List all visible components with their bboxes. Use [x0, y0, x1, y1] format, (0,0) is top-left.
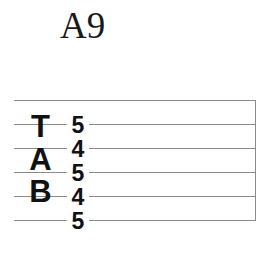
staff-line-6 — [14, 220, 256, 221]
staff-end-barline — [255, 100, 256, 221]
tab-clef-letter-b: B — [29, 176, 50, 207]
tab-clef: T A B — [27, 111, 53, 207]
tab-diagram-root: A9 T A B 5 4 5 4 5 — [0, 0, 269, 259]
tab-clef-letter-a: A — [29, 144, 50, 175]
fret-number-string-1: 5 — [67, 113, 89, 138]
chord-name-label: A9 — [60, 6, 105, 46]
fret-number-string-3: 5 — [67, 161, 89, 186]
fret-number-string-5: 5 — [67, 209, 89, 234]
fret-number-string-4: 4 — [67, 185, 89, 210]
fret-number-string-2: 4 — [67, 137, 89, 162]
staff-line-1 — [14, 100, 256, 101]
tab-clef-letter-t: T — [31, 111, 49, 142]
